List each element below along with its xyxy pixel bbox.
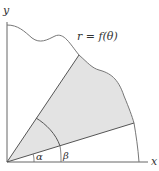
beta-arc <box>60 146 61 162</box>
x-axis-label: x <box>151 155 158 168</box>
alpha-arc <box>33 154 34 162</box>
shaded-region <box>7 55 134 162</box>
beta-label: β <box>62 150 69 161</box>
alpha-label: α <box>36 151 43 162</box>
curve-label: r = f(θ) <box>77 30 118 43</box>
y-axis-label: y <box>2 4 10 17</box>
polar-area-diagram: y x r = f(θ) α β <box>0 0 159 171</box>
